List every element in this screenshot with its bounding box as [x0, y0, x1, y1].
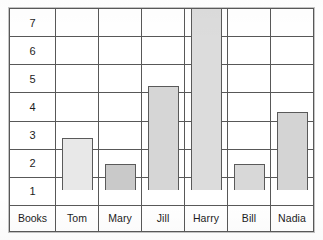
grid-row: 5	[10, 65, 314, 93]
grid-cell	[142, 177, 185, 205]
chart-grid: 7 6 5	[9, 8, 313, 232]
grid-cell	[185, 177, 228, 205]
grid-cell	[271, 149, 314, 177]
y-axis-tick-3: 3	[10, 121, 56, 149]
grid-cell	[271, 9, 314, 37]
grid-cell	[56, 37, 99, 65]
pictograph-bar-chart: 7 6 5	[0, 0, 323, 240]
grid-cell	[228, 37, 271, 65]
category-label-harry: Harry	[185, 205, 228, 231]
grid-row: 1	[10, 177, 314, 205]
category-label-row: Books Tom Mary Jill Harry Bill Nadia	[10, 205, 314, 231]
grid-cell	[185, 9, 228, 37]
grid-cell	[185, 65, 228, 93]
grid-cell	[271, 121, 314, 149]
grid-cell	[99, 177, 142, 205]
category-label-nadia: Nadia	[271, 205, 314, 231]
grid-cell	[185, 37, 228, 65]
grid-cell	[142, 149, 185, 177]
category-label-jill: Jill	[142, 205, 185, 231]
grid-cell	[271, 65, 314, 93]
grid-cell	[56, 121, 99, 149]
category-label-bill: Bill	[228, 205, 271, 231]
grid-cell	[99, 149, 142, 177]
grid-cell	[56, 177, 99, 205]
grid-cell	[142, 37, 185, 65]
grid-cell	[185, 93, 228, 121]
grid-row: 3	[10, 121, 314, 149]
axis-corner-label: Books	[10, 205, 56, 231]
grid-cell	[228, 9, 271, 37]
grid-cell	[56, 93, 99, 121]
grid-cell	[228, 177, 271, 205]
grid-cell	[99, 93, 142, 121]
grid-row: 4	[10, 93, 314, 121]
grid-cell	[228, 149, 271, 177]
grid-cell	[142, 121, 185, 149]
grid-cell	[228, 93, 271, 121]
grid-cell	[142, 9, 185, 37]
grid-cell	[185, 149, 228, 177]
grid-cell	[142, 65, 185, 93]
grid-cell	[56, 149, 99, 177]
grid-cell	[99, 37, 142, 65]
y-axis-tick-2: 2	[10, 149, 56, 177]
grid-cell	[185, 121, 228, 149]
grid-row: 6	[10, 37, 314, 65]
grid-cell	[271, 93, 314, 121]
y-axis-tick-4: 4	[10, 93, 56, 121]
grid-cell	[56, 9, 99, 37]
category-label-mary: Mary	[99, 205, 142, 231]
category-label-tom: Tom	[56, 205, 99, 231]
grid-cell	[142, 93, 185, 121]
y-axis-tick-7: 7	[10, 9, 56, 37]
grid-cell	[56, 65, 99, 93]
y-axis-tick-6: 6	[10, 37, 56, 65]
grid-cell	[228, 121, 271, 149]
grid-cell	[271, 177, 314, 205]
y-axis-tick-1: 1	[10, 177, 56, 205]
grid-cell	[99, 121, 142, 149]
grid-cell	[271, 37, 314, 65]
grid-row: 7	[10, 9, 314, 37]
y-axis-tick-5: 5	[10, 65, 56, 93]
chart-grid-table: 7 6 5	[9, 8, 314, 232]
grid-cell	[99, 9, 142, 37]
grid-cell	[228, 65, 271, 93]
grid-cell	[99, 65, 142, 93]
grid-row: 2	[10, 149, 314, 177]
